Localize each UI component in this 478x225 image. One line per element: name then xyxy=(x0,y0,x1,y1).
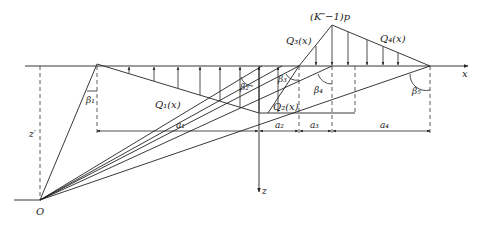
q4-slope xyxy=(332,25,430,66)
beta1-label: β₁ xyxy=(85,95,95,105)
x-axis-label: x xyxy=(462,68,468,79)
peak-label: (K″−1)p xyxy=(310,11,351,22)
q1-label: Q₁(x) xyxy=(155,99,181,110)
beta4-arc xyxy=(318,74,332,84)
beta4-label: β₄ xyxy=(313,85,323,95)
q34-arrows xyxy=(316,26,398,65)
q3-label: Q₃(x) xyxy=(286,35,312,46)
z-axis-label: z xyxy=(261,186,267,196)
beta3-label: β₃ xyxy=(277,74,287,84)
beta3-arc xyxy=(286,74,299,80)
q4-label: Q₄(x) xyxy=(380,33,406,44)
a2-label: a₂ xyxy=(275,120,284,130)
q2-label: Q₂(x) xyxy=(273,101,299,112)
z-prime-label: z′ xyxy=(28,129,36,139)
load-distribution-diagram: x z z′ O β₁ Q₁(x) Q₂(x) (K″−1)p Q₃(x xyxy=(0,0,478,225)
a4-label: a₄ xyxy=(380,120,389,130)
slip-line-fan xyxy=(40,66,430,200)
a1-label: a₁ xyxy=(176,120,185,130)
slip-line-1 xyxy=(40,64,97,200)
beta2-label: β₂ xyxy=(239,82,249,92)
a3-label: a₃ xyxy=(310,120,319,130)
beta5-label: β₅ xyxy=(411,86,421,96)
origin-label: O xyxy=(36,206,44,217)
